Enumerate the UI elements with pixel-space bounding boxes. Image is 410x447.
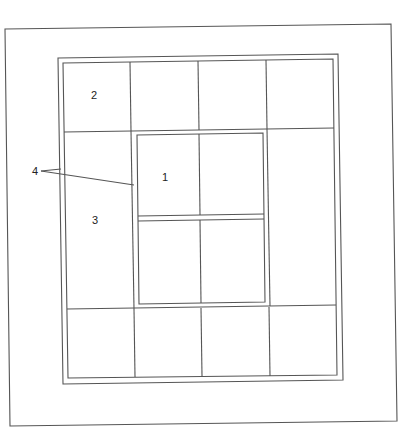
center-window-mullion-upper	[199, 134, 200, 215]
window-grid-diagram: 1 2 3 4	[0, 0, 410, 447]
center-window-rail-top	[138, 214, 264, 216]
leader-line-4b	[41, 171, 134, 185]
middle-frame	[58, 54, 343, 384]
leader-line-4a	[41, 169, 61, 171]
center-window-rail-bottom	[138, 219, 264, 221]
grid-line-top-v1	[130, 62, 131, 131]
center-window-mullion-lower	[200, 220, 201, 303]
ref-label-4: 4	[32, 165, 38, 177]
ref-label-1: 1	[162, 171, 168, 183]
grid-line-left-v	[131, 131, 134, 309]
grid-line-bottom-v2	[201, 308, 202, 376]
grid-line-bottom-v1	[134, 309, 135, 377]
grid-line-right-v	[267, 129, 270, 306]
inner-frame	[63, 59, 337, 378]
grid-line-bottom-v3	[269, 307, 270, 376]
grid-line-top-v2	[198, 61, 199, 130]
ref-label-3: 3	[92, 214, 98, 226]
grid-line-top-v3	[266, 60, 267, 129]
ref-label-2: 2	[91, 89, 97, 101]
